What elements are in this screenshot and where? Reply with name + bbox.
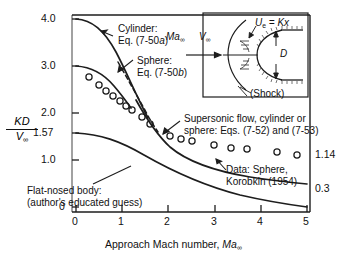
annotation-supersonic-line1: Supersonic flow, cylinder or [184,113,306,124]
inset-shock-label: (Shock) [250,88,284,100]
x-axis-label: Approach Mach number, Ma∞ [105,238,242,252]
annotation-data-line1: Data: Sphere, [226,164,288,175]
y-tick-label-1: 1.0 [41,153,56,165]
x-tick-label-2: 2 [164,215,170,227]
annotation-data-source: Data: Sphere, Korobkin (1954) [226,164,297,188]
x-tick-label-4: 4 [257,215,263,227]
annotation-cylinder: Cylinder: Eq. (7-50a) [118,23,168,47]
y-axis-numerator: KD [6,116,38,129]
inset-velocity-label: V∞ [199,31,211,44]
y-axis-label: KD V∞ [6,116,38,143]
figure-container: 4.0 3.0 2.0 1.57 1.0 0 0 1 2 3 4 5 1.14 … [0,0,353,269]
annotation-cylinder-line2: Eq. (7-50a) [118,35,168,46]
data-point [274,149,280,155]
diameter-dimension [274,31,279,79]
data-point [117,98,123,104]
inset-diameter-label: D [280,48,287,60]
data-point [211,142,217,148]
annotation-sphere: Sphere: Eq. (7-50b) [137,55,187,79]
annotation-supersonic-line2: sphere: Eqs. (7-52) and (7-53) [184,125,319,136]
y-tick-marks [72,19,79,207]
y-tick-label-3: 3.0 [41,59,56,71]
right-label-114: 1.14 [315,148,335,160]
annotation-sphere-line2: Eq. (7-50b) [137,67,187,78]
inset-mach-label: Ma∞ [166,31,185,44]
x-tick-label-1: 1 [118,215,124,227]
data-point [86,74,92,80]
annotation-flat-line1: Flat-nosed body: [27,185,102,196]
data-point [167,133,173,139]
x-tick-label-5: 5 [303,215,309,227]
data-point [244,146,250,152]
inset-ue-label: Ue = Kx [255,17,289,30]
inset-diagram [186,13,308,97]
y-axis-denominator: V∞ [6,130,38,144]
annotation-supersonic: Supersonic flow, cylinder or sphere: Eqs… [184,113,319,137]
data-point [96,82,102,88]
annotation-cylinder-line1: Cylinder: [118,23,157,34]
data-point [189,138,195,144]
data-point [110,93,116,99]
data-point [139,114,145,120]
annotation-sphere-line1: Sphere: [137,55,172,66]
x-tick-label-3: 3 [211,215,217,227]
y-tick-label-4: 4.0 [41,12,56,24]
y-tick-label-2: 2.0 [41,106,56,118]
annotation-flat-line2: (author's educated guess) [27,197,142,208]
data-point [294,152,300,158]
data-point [178,136,184,142]
right-label-03: 0.3 [315,182,330,194]
x-tick-label-0: 0 [72,215,78,227]
flat-nosed-leader [93,166,131,184]
data-arrowhead [216,159,222,164]
data-point [228,145,234,151]
data-point [103,88,109,94]
annotation-data-line2: Korobkin (1954) [226,176,297,187]
data-point [129,107,135,113]
data-point [123,103,129,109]
annotation-flat-nosed: Flat-nosed body: (author's educated gues… [27,185,142,209]
